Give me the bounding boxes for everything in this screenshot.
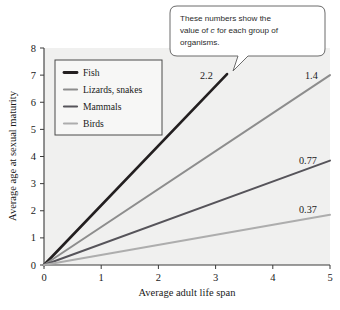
value-label-mammals: 0.77 [299, 155, 317, 166]
x-tick-label: 4 [270, 272, 276, 283]
y-tick-label: 3 [31, 178, 36, 189]
y-tick-label: 5 [31, 124, 36, 135]
y-tick-label: 7 [31, 70, 36, 81]
x-tick-label: 5 [327, 272, 332, 283]
y-tick-label: 1 [31, 232, 36, 243]
x-axis-ticks: 012345 [41, 265, 332, 283]
figure-root: 012345678 012345 2.2 1.4 0.77 0.37 Avera… [0, 0, 340, 310]
chart-svg: 012345678 012345 2.2 1.4 0.77 0.37 Avera… [0, 0, 340, 310]
legend: FishLizards, snakesMammalsBirds [55, 60, 162, 135]
x-tick-label: 2 [156, 272, 161, 283]
value-label-lizards: 1.4 [305, 70, 318, 81]
x-axis-title: Average adult life span [139, 287, 237, 298]
y-tick-label: 4 [31, 151, 37, 162]
x-tick-label: 1 [99, 272, 104, 283]
legend-item-label: Fish [83, 67, 100, 78]
legend-item-label: Lizards, snakes [83, 84, 142, 95]
callout-line-2-pre: value of [180, 26, 211, 35]
value-label-birds: 0.37 [299, 204, 317, 215]
callout-line-3: organisms. [180, 38, 220, 47]
y-axis-ticks: 012345678 [31, 43, 44, 271]
y-axis-title: Average age at sexual maturity [7, 90, 18, 221]
x-tick-label: 0 [41, 272, 46, 283]
callout-line-2-post: for each group of [215, 26, 279, 35]
callout-line-2: value of c for each group of [180, 26, 279, 35]
y-tick-label: 0 [31, 260, 36, 271]
legend-item-label: Birds [83, 118, 104, 129]
y-tick-label: 6 [31, 97, 36, 108]
y-tick-label: 2 [31, 205, 36, 216]
callout-line-1: These numbers show the [180, 14, 271, 23]
y-tick-label: 8 [31, 43, 36, 54]
legend-item-label: Mammals [83, 101, 122, 112]
value-label-fish: 2.2 [200, 70, 213, 81]
x-tick-label: 3 [213, 272, 218, 283]
